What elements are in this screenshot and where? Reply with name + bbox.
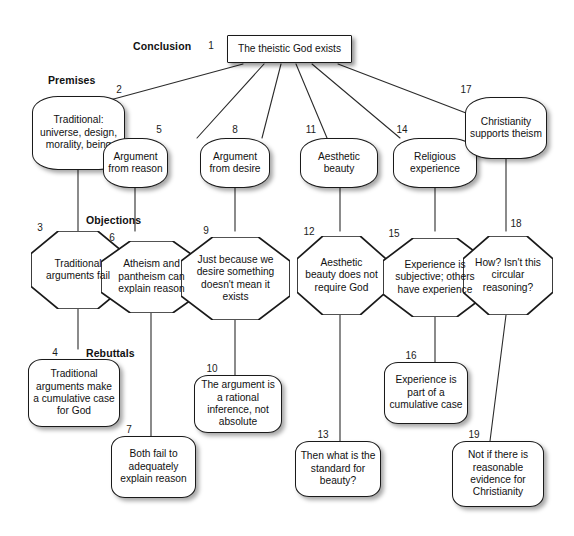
- node-9-text: Just because we desire something doesn't…: [181, 254, 290, 304]
- edge-1-8: [262, 64, 281, 138]
- node-10-rebuttal[interactable]: The argument is a rational inference, no…: [194, 375, 282, 433]
- node-1-conclusion[interactable]: The theistic God exists: [227, 35, 352, 63]
- node-13-text: Then what is the standard for beauty?: [300, 450, 376, 487]
- node-8-premise[interactable]: Argument from desire: [200, 138, 270, 188]
- node-id-13: 13: [315, 429, 331, 440]
- node-13-rebuttal[interactable]: Then what is the standard for beauty?: [295, 441, 381, 497]
- node-id-2: 2: [112, 84, 126, 95]
- section-label-conclusion: Conclusion: [133, 40, 191, 52]
- node-10-text: The argument is a rational inference, no…: [199, 379, 277, 429]
- edge-18-19: [490, 315, 506, 441]
- node-id-8: 8: [228, 124, 242, 135]
- edge-1-2: [110, 64, 243, 100]
- node-7-rebuttal[interactable]: Both fail to adequately explain reason: [111, 436, 196, 498]
- node-id-17: 17: [458, 84, 474, 95]
- edge-1-17: [338, 64, 466, 113]
- node-17-text: Christianity supports theism: [470, 116, 542, 141]
- node-12-objection[interactable]: Aesthetic beauty does not require God: [297, 236, 386, 315]
- node-id-5: 5: [152, 124, 166, 135]
- node-8-text: Argument from desire: [205, 151, 265, 176]
- section-label-rebuttals: Rebuttals: [86, 347, 135, 359]
- node-id-4: 4: [48, 347, 62, 358]
- node-id-18: 18: [508, 218, 524, 229]
- node-7-text: Both fail to adequately explain reason: [116, 448, 191, 485]
- node-17-premise[interactable]: Christianity supports theism: [465, 97, 547, 159]
- node-4-text: Traditional arguments make a cumulative …: [33, 368, 115, 418]
- node-12-text: Aesthetic beauty does not require God: [297, 257, 386, 294]
- node-16-text: Experience is part of a cumulative case: [389, 374, 463, 411]
- node-5-text: Argument from reason: [108, 151, 163, 176]
- node-id-1: 1: [204, 40, 218, 51]
- argument-map-canvas: Conclusion Premises Objections Rebuttals…: [0, 0, 574, 536]
- node-id-7: 7: [122, 424, 136, 435]
- node-19-text: Not if there is reasonable evidence for …: [457, 449, 539, 499]
- node-11-premise[interactable]: Aesthetic beauty: [300, 138, 378, 188]
- node-1-text: The theistic God exists: [232, 43, 347, 55]
- node-11-text: Aesthetic beauty: [305, 151, 373, 176]
- node-14-text: Religious experience: [398, 151, 472, 176]
- node-5-premise[interactable]: Argument from reason: [103, 138, 168, 188]
- node-9-objection[interactable]: Just because we desire something doesn't…: [181, 237, 290, 320]
- node-id-9: 9: [199, 225, 213, 236]
- edge-1-14: [312, 64, 400, 138]
- node-id-10: 10: [204, 363, 220, 374]
- node-19-rebuttal[interactable]: Not if there is reasonable evidence for …: [452, 441, 544, 507]
- node-18-text: How? Isn't this circular reasoning?: [463, 257, 553, 294]
- node-id-11: 11: [303, 124, 319, 135]
- section-label-objections: Objections: [86, 214, 141, 226]
- node-id-14: 14: [394, 124, 410, 135]
- node-id-16: 16: [403, 350, 419, 361]
- node-16-rebuttal[interactable]: Experience is part of a cumulative case: [384, 362, 468, 424]
- node-id-19: 19: [466, 429, 482, 440]
- node-18-objection[interactable]: How? Isn't this circular reasoning?: [463, 236, 553, 315]
- section-label-premises: Premises: [48, 74, 96, 86]
- node-4-rebuttal[interactable]: Traditional arguments make a cumulative …: [28, 359, 120, 427]
